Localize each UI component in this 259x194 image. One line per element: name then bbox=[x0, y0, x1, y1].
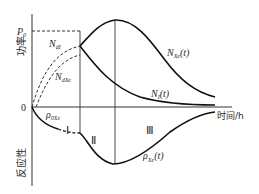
n-dxe-label: NdXe bbox=[54, 71, 71, 83]
xenon-poisoning-diagram: P0 功率 反应性 0 时间/h NdI NdXe NXe(t) NI(t) ρ… bbox=[0, 0, 259, 194]
x-axis-label: 时间/h bbox=[217, 110, 244, 121]
region-1-label: Ⅰ bbox=[66, 124, 69, 136]
origin-label: 0 bbox=[21, 102, 26, 113]
n-xe-label: NXe(t) bbox=[166, 47, 190, 59]
y-axis-label-top: 功率 bbox=[15, 36, 27, 56]
region-3-label: Ⅲ bbox=[146, 124, 154, 136]
n-i-label: NI(t) bbox=[150, 88, 170, 100]
y-axis-label-bottom: 反应性 bbox=[15, 148, 27, 178]
n-xe-curve bbox=[80, 20, 215, 97]
rho-dashed-segment bbox=[58, 129, 80, 133]
rho-0xe-label: ρ0Xe bbox=[45, 109, 60, 121]
rho-xe-label: ρXe(t) bbox=[142, 150, 164, 163]
n-i-curve bbox=[80, 46, 215, 105]
n-di-label: NdI bbox=[48, 38, 62, 50]
region-2-label: Ⅱ bbox=[91, 134, 96, 146]
